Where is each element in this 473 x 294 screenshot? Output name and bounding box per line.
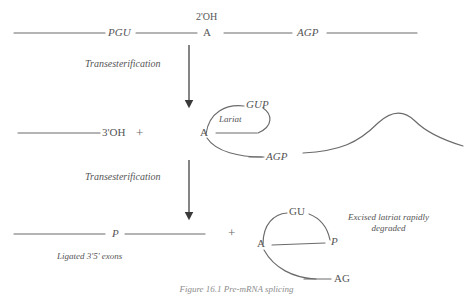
ligated-junction-p-label: P xyxy=(112,228,119,239)
lariat-branch-a-label-stage2: A xyxy=(200,127,208,138)
lariat-branch-a-label-stage3: A xyxy=(257,238,265,249)
lariat-agp-label-stage2: AGP xyxy=(266,151,287,162)
lariat-branch-line-stage3 xyxy=(272,243,325,245)
transesterification-label-1: Transesterification xyxy=(85,59,161,69)
lariat-tail-stage2 xyxy=(207,138,262,157)
lariat-loop-upper-stage3 xyxy=(263,213,287,244)
lariat-loop-right-stage2 xyxy=(258,108,270,133)
plus-sign-stage3: + xyxy=(228,226,235,239)
lariat-gup-label-stage2: GUP xyxy=(246,99,269,110)
transesterification-label-2: Transesterification xyxy=(85,172,161,182)
branch-point-a-label-stage1: A xyxy=(203,27,211,38)
exon1-label-stage1: PGU xyxy=(108,27,131,38)
lariat-tail-curve-stage3 xyxy=(264,250,316,279)
degradation-note-line1: Excised latriat rapidly xyxy=(348,212,429,223)
lariat-p-label-stage3: P xyxy=(331,236,338,247)
free-exon-3oh-label: 3'OH xyxy=(102,127,125,138)
branch-hydroxyl-label: 2'OH xyxy=(196,12,217,22)
figure-caption: Figure 16.1 Pre-mRNA splicing xyxy=(0,284,473,294)
lariat-ag-label-stage3: AG xyxy=(334,273,350,284)
intron-tail-wave-stage2 xyxy=(303,113,463,153)
exon2-label-stage1: AGP xyxy=(297,27,318,38)
lariat-gu-label-stage3: GU xyxy=(289,206,305,217)
degradation-note: Excised latriat rapidly degraded xyxy=(348,212,429,235)
lariat-inner-label-stage2: Lariat xyxy=(219,115,242,124)
plus-sign-stage2: + xyxy=(136,126,143,139)
lariat-loop-right-stage3 xyxy=(309,214,330,240)
degradation-note-line2: degraded xyxy=(348,223,429,234)
ligated-exons-caption: Ligated 3'5' exons xyxy=(57,252,122,261)
